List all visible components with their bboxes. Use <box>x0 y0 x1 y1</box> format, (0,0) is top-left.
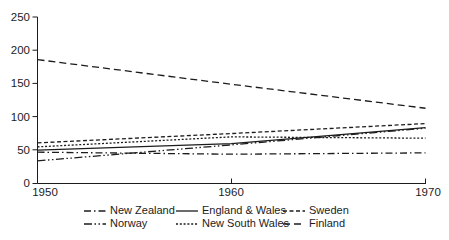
chart-figure: 0 50 100 150 200 250 1950 1960 1970 <box>0 0 449 240</box>
y-axis <box>33 17 38 184</box>
x-axis-labels: 1950 1960 1970 <box>32 186 441 198</box>
legend-marker-short-dash-icon <box>283 209 305 213</box>
series-line-norway <box>38 128 426 161</box>
x-axis <box>38 179 427 184</box>
legend-marker-dense-dot-icon <box>176 222 198 226</box>
legend-marker-solid-icon <box>176 209 198 213</box>
legend-item-sweden: Sweden <box>283 204 349 217</box>
x-tick-label: 1950 <box>32 186 58 198</box>
legend-label: England & Wales <box>202 204 286 217</box>
legend-label: New South Wales <box>202 217 289 230</box>
legend-item-new-south-wales: New South Wales <box>176 217 283 230</box>
y-tick-label: 200 <box>11 44 30 56</box>
legend-marker-dash-dot-icon <box>84 209 106 213</box>
legend-item-finland: Finland <box>283 217 345 230</box>
legend-item-new-zealand: New Zealand <box>84 204 176 217</box>
series-line-new-zealand <box>38 152 426 154</box>
series-line-england-wales <box>38 128 426 151</box>
series-line-new-south-wales <box>38 137 426 147</box>
legend-label: New Zealand <box>110 204 175 217</box>
legend-row-2: Norway New South Wales Finland <box>84 217 345 230</box>
x-tick-label: 1970 <box>415 186 441 198</box>
y-tick-label: 0 <box>24 177 30 189</box>
legend-label: Sweden <box>309 204 349 217</box>
legend-row-1: New Zealand England & Wales Sweden <box>84 204 349 217</box>
legend-marker-dash-dot-dot-icon <box>84 222 106 226</box>
legend-item-norway: Norway <box>84 217 176 230</box>
y-tick-label: 100 <box>11 111 30 123</box>
y-tick-label: 150 <box>11 77 30 89</box>
legend-label: Finland <box>309 217 345 230</box>
x-tick-label: 1960 <box>218 186 244 198</box>
y-axis-labels: 0 50 100 150 200 250 <box>11 11 30 189</box>
plot-series <box>38 60 426 161</box>
legend-item-england-wales: England & Wales <box>176 204 283 217</box>
series-line-sweden <box>38 124 426 143</box>
y-tick-label: 250 <box>11 11 30 23</box>
y-tick-label: 50 <box>17 144 30 156</box>
legend-marker-long-dash-icon <box>283 222 305 226</box>
series-line-finland <box>38 60 426 109</box>
legend-label: Norway <box>110 217 147 230</box>
